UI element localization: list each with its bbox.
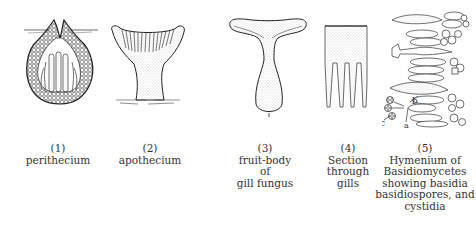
caption-5: (5) Hymenium of Basidiomycetes showing b… (374, 143, 476, 212)
caption-1: (1) perithecium (18, 143, 98, 166)
caption-2: (2) apothecium (110, 143, 190, 166)
caption-2-number: (2) (110, 143, 190, 155)
caption-2-line-1: apothecium (110, 155, 190, 167)
gill-section-drawing (323, 25, 369, 109)
caption-5-line-5: cystidia (374, 201, 476, 213)
caption-5-line-4: basidiospores, and (374, 189, 476, 201)
caption-4-number: (4) (318, 143, 378, 155)
caption-3-number: (3) (225, 143, 305, 155)
gill-fungus-drawing (228, 16, 308, 120)
caption-5-line-2: Basidiomycetes (374, 166, 476, 178)
caption-5-number: (5) (374, 143, 476, 155)
apothecium-drawing (108, 24, 188, 110)
hymenium-drawing: b c a (382, 10, 476, 128)
caption-4-line-2: through (318, 166, 378, 178)
label-a: a (404, 121, 409, 128)
caption-1-line-1: perithecium (18, 155, 98, 167)
caption-3-line-3: gill fungus (225, 178, 305, 190)
caption-4-line-3: gills (318, 178, 378, 190)
caption-4: (4) Section through gills (318, 143, 378, 189)
caption-3-line-2: of (225, 166, 305, 178)
caption-1-number: (1) (18, 143, 98, 155)
perithecium-drawing (18, 14, 100, 106)
caption-3: (3) fruit-body of gill fungus (225, 143, 305, 189)
label-c: c (382, 118, 385, 128)
label-b: b (412, 96, 418, 106)
